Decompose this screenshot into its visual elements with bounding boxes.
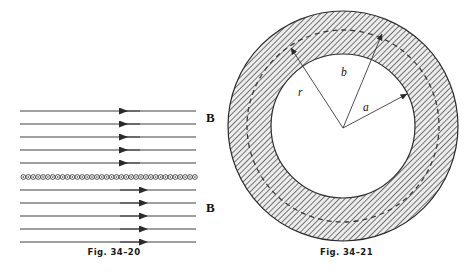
radius-label-r: r	[298, 86, 302, 98]
field-lines-above-solenoid	[20, 111, 196, 163]
figure-caption-34-21: Fig. 34–21	[228, 247, 465, 257]
figure-34-21-toroid-diagram	[228, 11, 458, 241]
toroid-hatched-annulus	[228, 11, 458, 241]
figure-sheet: B B r b a Fig. 34–20 Fig. 34–21	[0, 0, 465, 274]
magnetic-field-label-top: B	[206, 110, 215, 126]
radius-label-a: a	[363, 101, 369, 113]
figure-caption-34-20: Fig. 34–20	[0, 247, 228, 257]
figure-34-20-solenoid-diagram	[0, 0, 465, 274]
radius-label-b: b	[341, 66, 347, 78]
magnetic-field-label-bottom: B	[206, 200, 215, 216]
field-lines-below-solenoid	[20, 190, 196, 242]
solenoid-winding-row	[21, 175, 197, 180]
